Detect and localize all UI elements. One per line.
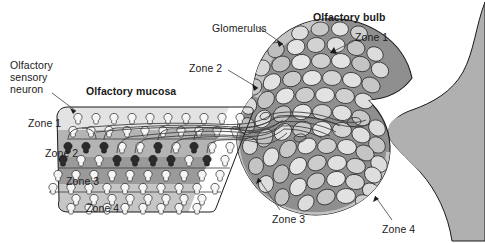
olfactory-mucosa-label: Olfactory mucosa	[86, 85, 176, 98]
mucosa-zone3-label: Zone 3	[66, 175, 99, 188]
olfactory-system-diagram: Glomerulus Olfactory bulb Zone 1 Zone 2 …	[0, 0, 485, 243]
olfactory-sensory-neuron-label-line3: neuron	[10, 83, 43, 96]
mucosa-zone4-label: Zone 4	[86, 202, 119, 215]
mucosa-zone2-label: Zone 2	[45, 147, 78, 160]
bulb-zone4-label: Zone 4	[382, 223, 415, 236]
olfactory-sensory-neuron-label-line1: Olfactory	[10, 59, 53, 72]
bulb-zone1-label: Zone 1	[355, 31, 388, 44]
olfactory-sensory-neuron-label-line2: sensory	[10, 71, 47, 84]
mucosa-zone3-band	[0, 157, 210, 184]
bulb-zone2-label: Zone 2	[189, 62, 222, 75]
glomerulus-label: Glomerulus	[212, 22, 267, 35]
diagram-illustration	[0, 0, 485, 243]
mucosa-zone1-label: Zone 1	[28, 117, 61, 130]
bulb-zone3-label: Zone 3	[272, 213, 305, 226]
brain-mass	[388, 2, 485, 241]
olfactory-bulb-label: Olfactory bulb	[313, 11, 386, 24]
